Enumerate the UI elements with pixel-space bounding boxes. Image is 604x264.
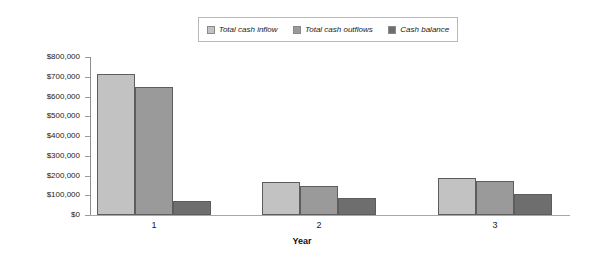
y-axis-tick-label: $600,000 [18, 93, 80, 101]
chart-legend: Total cash inflowTotal cash outflowsCash… [198, 17, 458, 42]
legend-item-label: Total cash inflow [219, 26, 278, 34]
bar [514, 194, 552, 215]
legend-item[interactable]: Total cash inflow [207, 26, 278, 34]
bar-chart: Total cash inflowTotal cash outflowsCash… [0, 0, 604, 264]
legend-item-label: Total cash outflows [305, 26, 373, 34]
y-axis-tick [85, 77, 90, 78]
bar [476, 181, 514, 215]
x-axis-category-label: 2 [299, 221, 339, 230]
y-axis-tick-label: $800,000 [18, 53, 80, 61]
y-axis-tick [85, 136, 90, 137]
bar [300, 186, 338, 215]
legend-swatch-icon [388, 26, 396, 34]
legend-swatch-icon [293, 26, 301, 34]
legend-swatch-icon [207, 26, 215, 34]
legend-item-label: Cash balance [400, 26, 449, 34]
x-axis-line [90, 215, 570, 216]
y-axis-tick-label: $200,000 [18, 172, 80, 180]
bar [173, 201, 211, 215]
x-axis-category-label: 1 [134, 221, 174, 230]
y-axis-tick [85, 176, 90, 177]
bar [262, 182, 300, 215]
bar [135, 87, 173, 215]
x-axis-title: Year [0, 237, 604, 246]
y-axis-tick [85, 57, 90, 58]
y-axis-tick-label: $400,000 [18, 132, 80, 140]
y-axis-tick [85, 195, 90, 196]
y-axis-tick-label: $0 [18, 211, 80, 219]
legend-item[interactable]: Total cash outflows [293, 26, 373, 34]
y-axis-tick [85, 215, 90, 216]
bar [97, 74, 135, 215]
y-axis-tick-label: $300,000 [18, 152, 80, 160]
y-axis-tick [85, 116, 90, 117]
y-axis-tick-label: $700,000 [18, 73, 80, 81]
y-axis-tick-label: $500,000 [18, 112, 80, 120]
bar [338, 198, 376, 215]
bar [438, 178, 476, 215]
y-axis-tick [85, 156, 90, 157]
y-axis-tick [85, 97, 90, 98]
legend-item[interactable]: Cash balance [388, 26, 449, 34]
y-axis-tick-label: $100,000 [18, 191, 80, 199]
y-axis-line [90, 57, 91, 216]
x-axis-category-label: 3 [475, 221, 515, 230]
